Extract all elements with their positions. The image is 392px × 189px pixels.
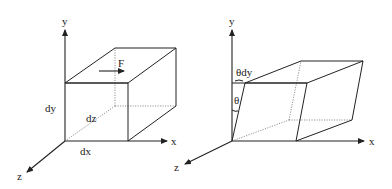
dx-label: dx [80,145,92,157]
dz-label: dz [86,112,97,124]
hidden-edge [232,120,289,141]
right-face [128,48,176,141]
dy-label: dy [45,102,57,114]
front-face [65,83,128,141]
y-axis-label: y [62,15,68,27]
front-face [232,83,307,141]
force-label: F [118,57,124,69]
right-figure: y x z θdy θ [174,15,375,173]
shear-strain-diagram: y x z F dy dz dx y x z θdy θ [0,0,392,189]
z-axis [27,141,65,172]
hidden-edge [289,61,301,120]
top-face [245,61,363,83]
z-axis [185,141,232,164]
x-axis-label: x [171,135,177,147]
left-figure: y x z F dy dz dx [17,15,177,182]
x-axis-label: x [369,135,375,147]
right-face [296,61,363,141]
theta-arc [232,110,238,111]
theta-dy-label: θdy [236,66,253,78]
theta-dy-arc [235,80,243,81]
y-axis-label: y [229,15,235,27]
z-axis-label: z [174,161,179,173]
z-axis-label: z [17,170,22,182]
theta-label: θ [234,94,239,106]
